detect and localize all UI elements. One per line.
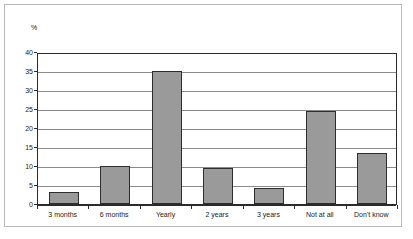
gridline bbox=[38, 72, 396, 73]
gridline bbox=[38, 110, 396, 111]
y-axis-unit-label: % bbox=[31, 24, 37, 32]
y-axis-tick-label: 30 bbox=[11, 87, 33, 94]
x-axis-tick-mark bbox=[88, 205, 89, 209]
x-axis-tick-mark bbox=[397, 205, 398, 209]
bar bbox=[254, 188, 284, 204]
y-axis-tick-label: 25 bbox=[11, 106, 33, 113]
bar bbox=[306, 111, 336, 204]
bar bbox=[203, 168, 233, 204]
y-axis-tick-label: 0 bbox=[11, 201, 33, 208]
x-axis-tick-mark bbox=[346, 205, 347, 209]
x-axis-tick-mark bbox=[294, 205, 295, 209]
chart-figure: % 0510152025303540 3 months6 monthsYearl… bbox=[4, 4, 402, 227]
gridline bbox=[38, 205, 396, 206]
bar bbox=[100, 166, 130, 204]
bar bbox=[49, 192, 79, 204]
x-axis-category-label: 3 years bbox=[243, 211, 294, 219]
bar bbox=[357, 153, 387, 204]
x-axis-category-label: Not at all bbox=[294, 211, 345, 219]
x-axis-category-label: Don't know bbox=[346, 211, 397, 219]
x-axis-tick-mark bbox=[243, 205, 244, 209]
x-axis-category-label: 2 years bbox=[191, 211, 242, 219]
gridline bbox=[38, 148, 396, 149]
y-axis-tick-label: 15 bbox=[11, 144, 33, 151]
plot-area bbox=[37, 53, 397, 205]
gridline bbox=[38, 91, 396, 92]
y-axis-tick-label: 40 bbox=[11, 49, 33, 56]
x-axis-category-label: Yearly bbox=[140, 211, 191, 219]
bar bbox=[152, 71, 182, 204]
gridline bbox=[38, 129, 396, 130]
y-axis-tick-label: 35 bbox=[11, 68, 33, 75]
y-axis-tick-label: 20 bbox=[11, 125, 33, 132]
y-axis-tick-label: 5 bbox=[11, 182, 33, 189]
y-axis-tick-label: 10 bbox=[11, 163, 33, 170]
x-axis-tick-mark bbox=[140, 205, 141, 209]
x-axis-tick-mark bbox=[37, 205, 38, 209]
x-axis-category-label: 6 months bbox=[88, 211, 139, 219]
x-axis-tick-mark bbox=[191, 205, 192, 209]
x-axis-category-label: 3 months bbox=[37, 211, 88, 219]
